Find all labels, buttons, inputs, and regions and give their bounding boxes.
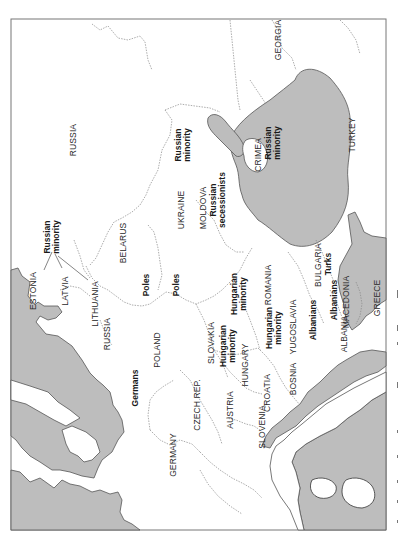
country-label-belarus: BELARUS	[119, 223, 128, 263]
country-label-estonia: ESTONIA	[29, 272, 38, 310]
country-label-germany: GERMANY	[169, 433, 178, 477]
country-label-lithuania: LITHUANIA	[91, 281, 100, 326]
country-label-bosnia: BOSNIA	[289, 363, 298, 396]
tick-mark	[397, 500, 398, 503]
country-label-albania: ALBANIA	[340, 316, 349, 353]
country-label-moldova: MOLDOVA	[199, 187, 208, 230]
tick-mark	[397, 382, 398, 388]
map-canvas	[0, 0, 401, 537]
minority-label-line: minority	[228, 325, 237, 367]
minority-label-line: Turks	[324, 253, 333, 276]
tick-mark	[397, 290, 398, 298]
minority-label-line: Poles	[172, 274, 181, 297]
country-label-russia-kaliningrad: RUSSIA	[103, 318, 112, 350]
country-label-bulgaria: BULGARIA	[314, 243, 323, 287]
country-label-turkey: TURKEY	[348, 117, 357, 152]
minority-label-line: Albanians	[309, 300, 318, 341]
country-label-georgia: GEORGIA	[274, 20, 283, 60]
country-label-yugoslavia: YUGOSLAVIA	[289, 299, 298, 354]
tick-mark	[397, 520, 398, 523]
country-label-slovakia: SLOVAKIA	[207, 322, 216, 364]
tick-mark	[397, 342, 398, 345]
minority-label-turks-bulgaria: Turks	[324, 253, 333, 276]
country-label-hungary: HUNGARY	[241, 343, 250, 386]
minority-label-line: minority	[183, 128, 192, 162]
minority-label-russian-minority-baltic: Russianminority	[43, 220, 61, 254]
minority-label-line: Germans	[131, 370, 140, 407]
country-label-russia: RUSSIA	[69, 124, 78, 156]
tick-mark	[397, 430, 398, 433]
minority-label-albanians-yugoslavia: Albanians	[309, 300, 318, 341]
minority-label-line: minority	[273, 126, 282, 160]
tick-mark	[397, 325, 398, 331]
minority-label-hungarian-minority-romania: Hungarianminority	[230, 273, 248, 315]
country-label-austria: AUSTRIA	[226, 391, 235, 429]
tick-mark	[397, 455, 398, 458]
country-label-latvia: LATVIA	[61, 276, 70, 305]
minority-label-line: Poles	[142, 274, 151, 297]
country-label-greece: GREECE	[373, 280, 382, 317]
minority-label-line: minority	[274, 307, 283, 349]
minority-label-line: secessionists	[218, 172, 227, 228]
country-label-crimea: CRIMEA	[254, 138, 263, 172]
tick-mark	[397, 480, 398, 483]
minority-label-poles-belarus: Poles	[142, 274, 151, 297]
country-label-poland: POLAND	[153, 332, 162, 368]
minority-label-albanians-macedonia: Albanians	[330, 280, 339, 321]
minority-label-line: minority	[239, 273, 248, 315]
country-label-slovenia: SLOVENIA	[258, 405, 267, 448]
country-label-ukraine: UKRAINE	[177, 191, 186, 230]
minority-label-line: minority	[52, 220, 61, 254]
minority-label-germans-poland: Germans	[131, 370, 140, 407]
minority-label-line: Albanians	[330, 280, 339, 321]
country-label-czech-rep: CZECH REP.	[193, 379, 202, 430]
minority-label-hungarian-minority-slovakia: Hungarianminority	[219, 325, 237, 367]
minority-label-russian-secessionists: Russiansecessionists	[209, 172, 227, 228]
minority-label-poles-ukraine: Poles	[172, 274, 181, 297]
minority-label-russian-minority-ukraine: Russianminority	[174, 128, 192, 162]
country-label-romania: ROMANIA	[264, 265, 273, 305]
minority-label-hungarian-minority-yugoslavia: Hungarianminority	[265, 307, 283, 349]
minority-label-russian-minority-crimea: Russianminority	[264, 126, 282, 160]
